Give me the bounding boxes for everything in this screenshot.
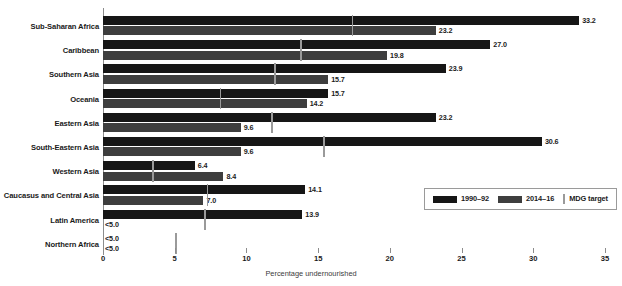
bar-1990-92 xyxy=(103,113,436,122)
mdg-target-marker xyxy=(204,209,206,230)
chart-legend: 1990–92 2014–16 MDG target xyxy=(424,188,617,210)
bar-2014-16 xyxy=(103,51,387,60)
x-axis: 05101520253035 xyxy=(103,248,605,249)
mdg-target-marker xyxy=(352,15,354,36)
legend-label-2014-16: 2014–16 xyxy=(526,195,554,202)
bar-value-label: 14.2 xyxy=(310,99,324,108)
x-axis-tick-label: 30 xyxy=(529,255,537,263)
category-label: Latin America xyxy=(0,217,99,225)
x-axis-tick xyxy=(605,248,606,253)
category-label: South-Eastern Asia xyxy=(0,144,99,152)
bar-value-label: <5.0 xyxy=(105,220,119,229)
mdg-target-marker xyxy=(300,39,302,60)
x-axis-tick-label: 10 xyxy=(242,255,250,263)
bar-1990-92 xyxy=(103,161,195,170)
bar-2014-16 xyxy=(103,172,223,181)
category-label: Western Asia xyxy=(0,168,99,176)
x-axis-tick-label: 25 xyxy=(457,255,465,263)
bar-value-label: 6.4 xyxy=(198,161,208,170)
bar-value-label: 8.4 xyxy=(226,172,236,181)
bar-value-label: <5.0 xyxy=(105,234,119,243)
bar-value-label: 15.7 xyxy=(331,89,345,98)
legend-swatch-2014-16 xyxy=(498,196,522,203)
mdg-target-marker xyxy=(207,184,209,205)
bar-value-label: 19.8 xyxy=(390,51,404,60)
legend-label-1990-92: 1990–92 xyxy=(461,195,489,202)
bar-value-label: 9.6 xyxy=(244,123,254,132)
bar-value-label: 23.2 xyxy=(439,26,453,35)
bar-2014-16 xyxy=(103,26,436,35)
x-axis-tick-label: 5 xyxy=(173,255,177,263)
legend-item-1990-92: 1990–92 xyxy=(433,195,489,202)
bar-value-label: 9.6 xyxy=(244,147,254,156)
category-label: Eastern Asia xyxy=(0,120,99,128)
mdg-target-marker xyxy=(152,160,154,181)
x-axis-tick-label: 0 xyxy=(101,255,105,263)
mdg-target-marker xyxy=(271,112,273,133)
category-label: Oceania xyxy=(0,96,99,104)
category-label: Sub-Saharan Africa xyxy=(0,23,99,31)
bar-1990-92 xyxy=(103,16,579,25)
legend-label-mdg-target: MDG target xyxy=(569,195,608,202)
bar-1990-92 xyxy=(103,185,305,194)
bar-value-label: 15.7 xyxy=(331,75,345,84)
legend-item-2014-16: 2014–16 xyxy=(498,195,554,202)
legend-marker-mdg-target-icon xyxy=(563,194,565,204)
plot-area: 33.223.227.019.823.915.715.714.223.29.63… xyxy=(103,8,605,248)
bar-2014-16 xyxy=(103,147,241,156)
category-label: Northern Africa xyxy=(0,241,99,249)
x-axis-tick xyxy=(318,248,319,253)
bar-2014-16 xyxy=(103,196,203,205)
bar-2014-16 xyxy=(103,99,307,108)
mdg-target-marker xyxy=(274,63,276,84)
x-axis-tick xyxy=(103,248,104,253)
bar-value-label: 23.9 xyxy=(449,64,463,73)
category-label: Caribbean xyxy=(0,47,99,55)
bar-value-label: 14.1 xyxy=(308,185,322,194)
x-axis-tick xyxy=(175,248,176,253)
x-axis-tick xyxy=(390,248,391,253)
x-axis-tick xyxy=(246,248,247,253)
x-axis-tick-label: 35 xyxy=(601,255,609,263)
bar-value-label: 13.9 xyxy=(305,210,319,219)
bar-value-label: 30.6 xyxy=(545,137,559,146)
bar-1990-92 xyxy=(103,210,302,219)
bar-value-label: 27.0 xyxy=(493,40,507,49)
x-axis-tick-label: 15 xyxy=(314,255,322,263)
x-axis-tick xyxy=(533,248,534,253)
legend-swatch-1990-92 xyxy=(433,196,457,203)
x-axis-tick xyxy=(462,248,463,253)
bar-value-label: 23.2 xyxy=(439,113,453,122)
bar-1990-92 xyxy=(103,40,490,49)
x-axis-title: Percentage undernourished xyxy=(0,270,622,277)
category-label: Southern Asia xyxy=(0,71,99,79)
x-axis-tick-label: 20 xyxy=(386,255,394,263)
mdg-target-marker xyxy=(323,136,325,157)
mdg-target-marker xyxy=(220,88,222,109)
category-label: Caucasus and Central Asia xyxy=(0,192,99,200)
bar-value-label: 33.2 xyxy=(582,16,596,25)
bar-1990-92 xyxy=(103,89,328,98)
bar-2014-16 xyxy=(103,123,241,132)
legend-item-mdg-target: MDG target xyxy=(563,194,608,204)
bar-2014-16 xyxy=(103,75,328,84)
undernourishment-bar-chart: Sub-Saharan AfricaCaribbeanSouthern Asia… xyxy=(0,0,622,286)
